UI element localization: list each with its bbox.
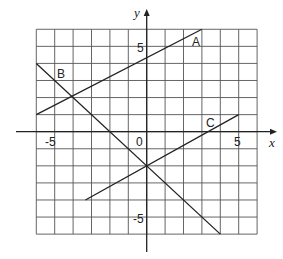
y-tick-neg5: -5 <box>133 212 144 226</box>
x-tick-neg5: -5 <box>45 135 56 149</box>
coordinate-plane: y x -5 0 5 5 -5 A B C <box>0 0 283 259</box>
line-c <box>85 115 238 200</box>
x-axis-label: x <box>268 135 275 150</box>
origin-label: 0 <box>136 135 143 149</box>
y-axis-label: y <box>132 5 140 20</box>
y-tick-5: 5 <box>137 41 144 55</box>
line-a-label: A <box>192 35 200 49</box>
line-c-label: C <box>206 116 215 130</box>
x-tick-5: 5 <box>234 135 241 149</box>
x-axis-arrow-icon <box>270 129 277 135</box>
y-axis-arrow-icon <box>144 9 150 16</box>
line-b-label: B <box>57 67 65 81</box>
